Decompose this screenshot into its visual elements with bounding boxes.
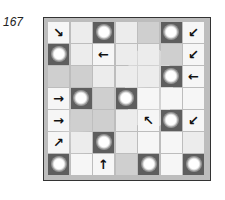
sun-icon [96,24,112,40]
grid-cell[interactable] [71,88,92,109]
sun-icon [163,68,179,84]
arrow-up-icon: ↑ [98,158,109,171]
sun-icon [51,156,67,172]
sun-icon [118,90,134,106]
grid-cell[interactable] [161,22,182,43]
grid-cell[interactable] [93,66,114,87]
grid-cell[interactable] [161,110,182,131]
grid-cell[interactable]: → [48,88,69,109]
grid-cell[interactable] [138,44,159,65]
grid-cell[interactable] [116,22,137,43]
arrow-up-right-icon: ↗ [53,136,64,149]
arrow-down-left-icon: ↙ [188,114,199,127]
sun-icon [163,112,179,128]
grid-cell[interactable]: ← [183,66,204,87]
grid-cell[interactable] [161,88,182,109]
grid-cell[interactable] [116,154,137,175]
grid-cell[interactable] [116,110,137,131]
grid-cell[interactable] [161,154,182,175]
arrow-down-right-icon: ↘ [53,26,64,39]
grid-cell[interactable] [71,66,92,87]
grid-cell[interactable] [138,132,159,153]
grid-cell[interactable]: ↖ [138,110,159,131]
puzzle-grid: ↘↙←↙←→→↖↙↗↑ [48,22,204,175]
grid-cell[interactable]: ↙ [183,44,204,65]
arrow-up-left-icon: ↖ [143,114,154,127]
grid-cell[interactable] [138,88,159,109]
arrow-right-icon: → [53,92,64,105]
grid-cell[interactable] [71,132,92,153]
grid-cell[interactable] [116,44,137,65]
grid-cell[interactable] [161,132,182,153]
sun-icon [141,156,157,172]
sun-icon [73,90,89,106]
puzzle-number: 167 [3,15,23,29]
grid-cell[interactable] [183,88,204,109]
grid-cell[interactable] [116,66,137,87]
grid-cell[interactable]: ↙ [183,22,204,43]
arrow-down-left-icon: ↙ [188,26,199,39]
grid-cell[interactable] [48,44,69,65]
grid-cell[interactable]: ↘ [48,22,69,43]
grid-cell[interactable] [93,110,114,131]
grid-cell[interactable] [48,154,69,175]
grid-cell[interactable] [116,88,137,109]
grid-cell[interactable] [161,66,182,87]
grid-cell[interactable] [138,154,159,175]
puzzle-board: ↘↙←↙←→→↖↙↗↑ [43,17,211,181]
grid-cell[interactable]: ↑ [93,154,114,175]
sun-icon [163,24,179,40]
grid-cell[interactable]: → [48,110,69,131]
grid-cell[interactable] [138,22,159,43]
grid-cell[interactable]: ↗ [48,132,69,153]
grid-cell[interactable] [93,22,114,43]
sun-icon [186,156,202,172]
grid-cell[interactable] [183,132,204,153]
grid-cell[interactable] [71,110,92,131]
grid-cell[interactable] [116,132,137,153]
grid-cell[interactable] [48,66,69,87]
grid-cell[interactable] [93,132,114,153]
sun-icon [51,46,67,62]
grid-cell[interactable]: ← [93,44,114,65]
arrow-left-icon: ← [188,70,199,83]
grid-cell[interactable] [71,44,92,65]
arrow-left-icon: ← [98,48,109,61]
grid-cell[interactable] [138,66,159,87]
grid-cell[interactable] [93,88,114,109]
grid-cell[interactable] [71,154,92,175]
grid-cell[interactable]: ↙ [183,110,204,131]
arrow-right-icon: → [53,114,64,127]
arrow-down-left-icon: ↙ [188,48,199,61]
sun-icon [96,134,112,150]
grid-cell[interactable] [161,44,182,65]
grid-cell[interactable] [71,22,92,43]
grid-cell[interactable] [183,154,204,175]
